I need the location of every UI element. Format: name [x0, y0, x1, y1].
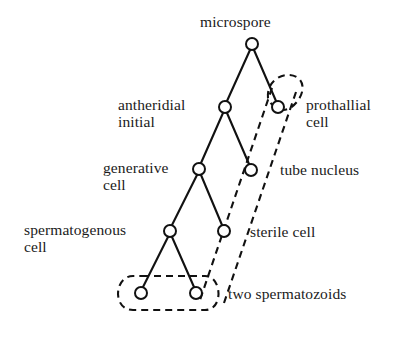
- label-microspore: microspore: [200, 13, 271, 30]
- label-spermatogenous-cell: spermatogenous cell: [24, 221, 126, 255]
- node-antheridial-initial[interactable]: [219, 101, 231, 113]
- edge-generative-sterile: [201, 175, 222, 225]
- edge-spermatogenous-right: [172, 237, 194, 287]
- node-spermatogenous-cell[interactable]: [164, 225, 176, 237]
- label-sterile-cell: sterile cell: [250, 223, 315, 240]
- label-tube-nucleus: tube nucleus: [280, 161, 359, 178]
- node-prothallial-cell[interactable]: [272, 101, 284, 113]
- node-spermatozoid-left[interactable]: [135, 287, 147, 299]
- diagram-canvas: microspore antheridial initial prothalli…: [0, 0, 408, 339]
- edge-antheridial-generative: [201, 113, 223, 163]
- label-prothallial-cell: prothallial cell: [306, 96, 371, 130]
- label-generative-cell: generative cell: [103, 159, 169, 193]
- edge-antheridial-tubenucleus: [227, 113, 249, 164]
- node-microspore[interactable]: [246, 38, 258, 50]
- label-antheridial-initial: antheridial initial: [118, 96, 185, 130]
- edge-generative-spermatogenous: [172, 175, 197, 225]
- edge-spermatogenous-left: [143, 237, 168, 287]
- edge-microspore-antheridial: [227, 50, 250, 101]
- node-spermatozoid-right[interactable]: [190, 287, 202, 299]
- edge-microspore-prothallial: [254, 50, 276, 101]
- label-two-spermatozoids: two spermatozoids: [228, 285, 346, 302]
- node-sterile-cell[interactable]: [218, 225, 230, 237]
- node-tube-nucleus[interactable]: [245, 164, 257, 176]
- node-generative-cell[interactable]: [193, 163, 205, 175]
